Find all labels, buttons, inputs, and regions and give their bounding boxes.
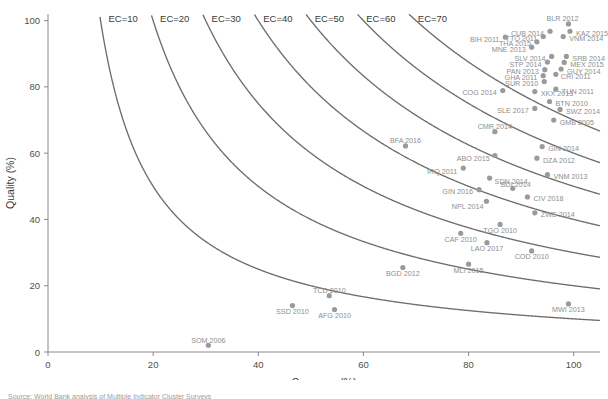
data-point-label: BFA 2016 (390, 136, 421, 145)
data-point[interactable] (547, 99, 552, 104)
scatter-plot: EC=10EC=20EC=30EC=40EC=50EC=60EC=70 0204… (0, 0, 608, 380)
data-point[interactable] (503, 35, 508, 40)
data-point-label: SSD 2010 (276, 307, 309, 316)
data-point[interactable] (532, 89, 537, 94)
data-point-label: DZA 2012 (543, 156, 575, 165)
data-point-label: CIV 2018 (533, 194, 563, 203)
x-tick-label: 0 (45, 359, 50, 370)
data-point[interactable] (553, 72, 558, 77)
data-point[interactable] (541, 73, 546, 78)
data-point[interactable] (557, 107, 562, 112)
data-point-label: MLI 2015 (454, 266, 484, 275)
y-tick-label: 20 (29, 280, 40, 291)
data-point[interactable] (487, 175, 492, 180)
data-point-label: COG 2014 (462, 88, 496, 97)
y-tick-label: 60 (29, 148, 40, 159)
footnote-text: Source: World Bank analysis of Multiple … (8, 392, 211, 399)
data-point-label: MWI 2013 (552, 305, 585, 314)
data-point-label: TGO 2010 (483, 226, 517, 235)
y-tick-label: 100 (24, 15, 40, 26)
data-point-label: BIH 2011 (470, 35, 499, 44)
data-point[interactable] (525, 194, 530, 199)
ec-curve-label-70: EC=70 (418, 13, 447, 24)
x-tick-label: 80 (463, 359, 474, 370)
data-point-label: SOM 2006 (191, 336, 225, 345)
x-axis-title: Coverage (%) (292, 376, 357, 380)
data-point-label: CRI 2011 (561, 72, 591, 81)
x-tick-label: 60 (358, 359, 369, 370)
data-point[interactable] (549, 54, 554, 59)
data-point[interactable] (492, 153, 497, 158)
data-point-label: XKX 2013 (541, 89, 573, 98)
data-point-label: MNE 2013 (492, 45, 526, 54)
data-point-label: AFG 2010 (318, 311, 351, 320)
data-point-label: GIN 2016 (442, 187, 473, 196)
data-point[interactable] (547, 29, 552, 34)
data-point-label: BDI 2014 (501, 180, 531, 189)
data-point[interactable] (532, 210, 537, 215)
ec-curve-label-20: EC=20 (160, 13, 189, 24)
ec-curve-label-40: EC=40 (263, 13, 292, 24)
data-point-label: CMR 2014 (478, 122, 512, 131)
data-point-label: IRQ 2011 (427, 167, 457, 176)
data-point[interactable] (561, 34, 566, 39)
data-point-group: BLR 2012KAZ 2015CUB 2014TTO 2011THA 2015… (191, 14, 608, 348)
data-point-label: ZWE 2014 (541, 210, 575, 219)
data-point-label: COD 2010 (515, 252, 549, 261)
data-point[interactable] (562, 60, 567, 65)
data-point[interactable] (551, 117, 556, 122)
data-point[interactable] (534, 156, 539, 161)
data-point-label: LAO 2017 (471, 244, 503, 253)
data-point[interactable] (541, 34, 546, 39)
data-point-label: TCD 2010 (313, 286, 346, 295)
data-point-label: GIN 2014 (548, 144, 579, 153)
ec-curve-label-30: EC=30 (212, 13, 241, 24)
data-point-label: GMB 2005 (560, 118, 594, 127)
data-point-label: SWZ 2014 (566, 107, 600, 116)
data-point-label: SUR 2010 (505, 79, 538, 88)
y-tick-label: 80 (29, 81, 40, 92)
y-tick-label: 40 (29, 214, 40, 225)
data-point-label: SLE 2017 (497, 106, 529, 115)
y-tick-label: 0 (35, 347, 40, 358)
data-point[interactable] (532, 106, 537, 111)
data-point[interactable] (534, 39, 539, 44)
data-point[interactable] (564, 54, 569, 59)
data-point[interactable] (529, 45, 534, 50)
y-axis-title: Quality (%) (4, 157, 16, 209)
data-point-label: BGD 2012 (386, 269, 420, 278)
ec-curve-label-50: EC=50 (315, 13, 344, 24)
data-point-label: VNM 2014 (569, 34, 603, 43)
x-tick-label: 100 (566, 359, 582, 370)
data-point-label: CAF 2010 (445, 235, 477, 244)
data-point[interactable] (542, 79, 547, 84)
data-point-label: NPL 2014 (452, 202, 484, 211)
chart-container: EC=10EC=20EC=30EC=40EC=50EC=60EC=70 0204… (0, 0, 608, 399)
data-point[interactable] (484, 199, 489, 204)
data-point[interactable] (500, 88, 505, 93)
data-point[interactable] (545, 172, 550, 177)
data-point-label: BLR 2012 (546, 14, 578, 23)
x-tick-label: 20 (148, 359, 159, 370)
ec-curve-label-10: EC=10 (109, 13, 138, 24)
data-point[interactable] (476, 187, 481, 192)
data-point-label: ABO 2015 (457, 154, 490, 163)
ec-curve-label-60: EC=60 (366, 13, 395, 24)
data-point[interactable] (540, 144, 545, 149)
data-point[interactable] (542, 67, 547, 72)
ec-curve-label-group: EC=10EC=20EC=30EC=40EC=50EC=60EC=70 (109, 13, 448, 24)
data-point-label: VNM 2013 (553, 172, 587, 181)
data-point[interactable] (545, 59, 550, 64)
data-point[interactable] (461, 165, 466, 170)
x-tick-label: 40 (253, 359, 264, 370)
